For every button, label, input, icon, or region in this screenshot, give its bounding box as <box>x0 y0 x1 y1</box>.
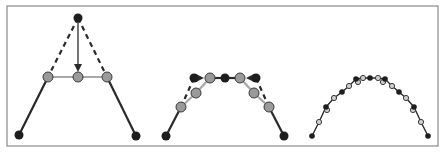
control-point <box>190 74 199 83</box>
panel-step-1 <box>15 14 141 141</box>
refined-point <box>331 95 336 100</box>
control-point <box>15 131 24 140</box>
control-point <box>411 104 417 110</box>
control-point <box>339 89 345 95</box>
new-point <box>235 73 245 83</box>
control-point <box>221 74 230 83</box>
diagram-canvas <box>0 0 444 154</box>
control-point <box>162 132 171 141</box>
refined-point <box>316 119 321 124</box>
new-point <box>43 72 53 82</box>
control-point <box>132 132 141 141</box>
control-point <box>309 133 315 139</box>
control-point <box>323 104 329 110</box>
refined-point <box>403 95 408 100</box>
refined-point <box>346 83 351 88</box>
refined-point <box>418 119 423 124</box>
subdivision-diagram <box>0 0 444 154</box>
solid-edge <box>19 77 48 135</box>
new-point <box>205 73 215 83</box>
control-point <box>396 89 402 95</box>
new-point <box>264 102 274 112</box>
refined-point <box>375 75 380 80</box>
control-point <box>382 76 388 82</box>
dashed-edge <box>78 18 107 77</box>
panel-step-3 <box>309 75 431 139</box>
solid-edge <box>312 78 428 136</box>
new-point <box>102 72 112 82</box>
solid-edge <box>107 77 136 136</box>
new-point <box>191 88 201 98</box>
control-point <box>252 74 261 83</box>
control-point <box>353 76 359 82</box>
panel-step-2 <box>162 73 289 141</box>
new-point <box>73 72 83 82</box>
refined-point <box>389 83 394 88</box>
refined-point <box>360 75 365 80</box>
new-point <box>249 88 259 98</box>
control-point <box>367 75 373 81</box>
control-point <box>74 14 83 23</box>
control-point <box>425 133 431 139</box>
control-point <box>280 132 289 141</box>
dashed-edge <box>48 18 78 77</box>
new-point <box>176 102 186 112</box>
